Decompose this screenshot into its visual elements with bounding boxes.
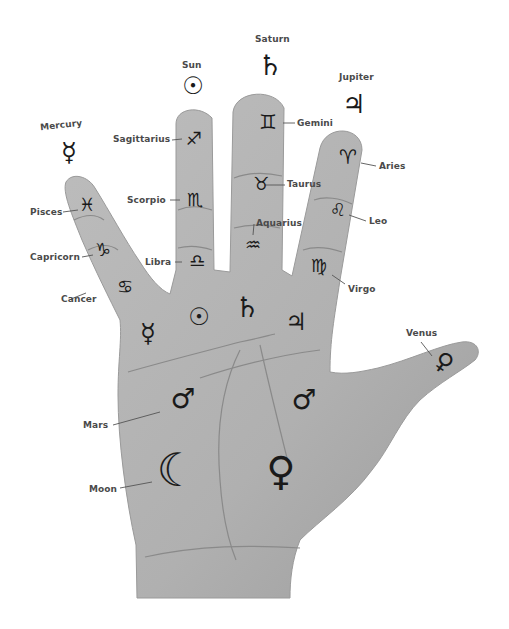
- label-mars: Mars: [83, 420, 108, 430]
- sagittarius-icon: ♐: [186, 130, 202, 148]
- venus-palm-icon: ♀: [266, 451, 295, 491]
- palmistry-diagram: Mercury ☿ Sun ☉ Saturn ♄ Jupiter ♃ Sagit…: [0, 0, 509, 629]
- mount-sun-icon: ☉: [188, 305, 210, 329]
- moon-icon: ☾: [156, 447, 197, 493]
- label-venus: Venus: [406, 328, 437, 338]
- pisces-icon: ♓: [79, 196, 95, 214]
- label-sun: Sun: [182, 60, 202, 70]
- label-aquarius: Aquarius: [256, 218, 302, 228]
- label-libra: Libra: [145, 257, 171, 267]
- label-capricorn: Capricorn: [30, 252, 80, 262]
- label-virgo: Virgo: [348, 284, 375, 294]
- virgo-icon: ♍: [311, 257, 327, 275]
- mount-jupiter-icon: ♃: [285, 310, 307, 334]
- label-scorpio: Scorpio: [127, 195, 166, 205]
- label-sagittarius: Sagittarius: [113, 134, 170, 144]
- label-aries: Aries: [379, 161, 405, 171]
- gemini-icon: ♊: [259, 112, 277, 132]
- label-cancer: Cancer: [61, 294, 97, 304]
- mount-saturn-icon: ♄: [234, 294, 259, 322]
- aquarius-icon: ♒: [245, 236, 261, 254]
- label-jupiter: Jupiter: [339, 72, 374, 82]
- label-moon: Moon: [89, 484, 117, 494]
- sun-icon: ☉: [182, 74, 204, 98]
- mount-mercury-icon: ☿: [140, 320, 156, 346]
- jupiter-icon: ♃: [342, 91, 365, 117]
- mars-upper-icon: ♂: [291, 386, 316, 414]
- label-gemini: Gemini: [297, 118, 333, 128]
- mercury-icon: ☿: [61, 139, 77, 165]
- aries-icon: ♈: [339, 147, 357, 167]
- scorpio-icon: ♏: [187, 191, 203, 209]
- label-saturn: Saturn: [255, 34, 290, 44]
- leo-icon: ♌: [330, 201, 346, 219]
- label-leo: Leo: [369, 216, 387, 226]
- saturn-icon: ♄: [257, 52, 282, 80]
- capricorn-icon: ♑: [95, 241, 111, 259]
- label-pisces: Pisces: [30, 207, 62, 217]
- label-taurus: Taurus: [287, 179, 321, 189]
- cancer-icon: ♋: [117, 278, 133, 296]
- taurus-icon: ♉: [253, 175, 269, 193]
- hand-silhouette: [65, 94, 478, 598]
- mars-lower-icon: ♂: [170, 385, 195, 413]
- libra-icon: ♎: [189, 252, 205, 270]
